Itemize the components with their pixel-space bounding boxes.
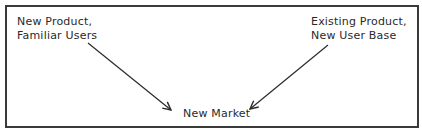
arrows-layer bbox=[0, 0, 422, 131]
arrow-right-to-new-market bbox=[250, 45, 328, 109]
arrow-left-to-new-market bbox=[88, 43, 171, 110]
